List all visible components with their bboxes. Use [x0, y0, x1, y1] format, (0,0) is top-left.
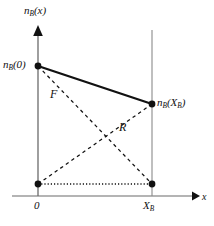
xb-tick-label: XB	[143, 200, 154, 213]
point-marker-baseline-right	[149, 181, 156, 188]
point-marker-nb-xb	[149, 101, 156, 108]
x-axis-label: x	[202, 192, 206, 202]
point-marker-nb-zero	[35, 63, 42, 70]
diagram-canvas	[0, 0, 214, 226]
forward-flux-line	[38, 66, 152, 184]
y-axis-arrowhead	[33, 25, 43, 36]
nb-xb-label-argument-open: (X	[167, 96, 177, 108]
xb-tick-label-main: X	[143, 199, 150, 211]
nb-zero-label: nB(0)	[3, 59, 26, 72]
forward-flux-label: F	[50, 88, 57, 100]
reverse-flux-label: R	[119, 121, 126, 133]
reverse-flux-line	[38, 104, 152, 184]
concentration-profile-figure: nB(x) nB(0) nB(XB) F R 0 XB x	[0, 0, 214, 226]
xb-tick-label-subscript: B	[150, 205, 154, 213]
x-axis	[12, 192, 200, 201]
point-marker-baseline-left	[35, 181, 42, 188]
origin-tick-label: 0	[34, 200, 40, 211]
nb-zero-label-argument: (0)	[13, 58, 26, 70]
y-axis	[33, 25, 43, 196]
nb-xb-label: nB(XB)	[157, 97, 185, 110]
x-axis-arrowhead	[192, 192, 200, 201]
y-axis-label-argument: (x)	[34, 4, 46, 16]
nb-xb-label-argument-close: )	[182, 96, 186, 108]
y-axis-label: nB(x)	[24, 5, 46, 18]
